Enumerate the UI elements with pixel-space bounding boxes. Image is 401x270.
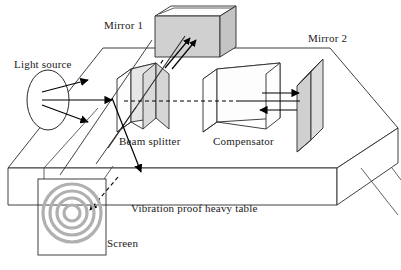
- beam-splitter-depth-face: [143, 63, 156, 129]
- compensator-right-face: [266, 63, 280, 129]
- table-slant-guide-b: [392, 168, 401, 180]
- label-light-source: Light source: [14, 58, 72, 70]
- label-beam-splitter: Beam splitter: [119, 135, 181, 147]
- interferometer-figure: Light source Mirror 1 Mirror 2 Beam spli…: [0, 0, 401, 270]
- label-compensator: Compensator: [213, 135, 274, 147]
- figure-canvas: Light source Mirror 1 Mirror 2 Beam spli…: [0, 0, 401, 270]
- mirror-2-front-face: [311, 59, 323, 140]
- beam-splitter-right-face: [156, 63, 169, 129]
- mirror-1: [155, 6, 236, 57]
- label-table: Vibration proof heavy table: [131, 202, 258, 214]
- label-screen: Screen: [107, 237, 138, 249]
- label-mirror-2: Mirror 2: [308, 32, 347, 44]
- label-mirror-1: Mirror 1: [104, 19, 143, 31]
- fringe-ring-1: [64, 205, 80, 221]
